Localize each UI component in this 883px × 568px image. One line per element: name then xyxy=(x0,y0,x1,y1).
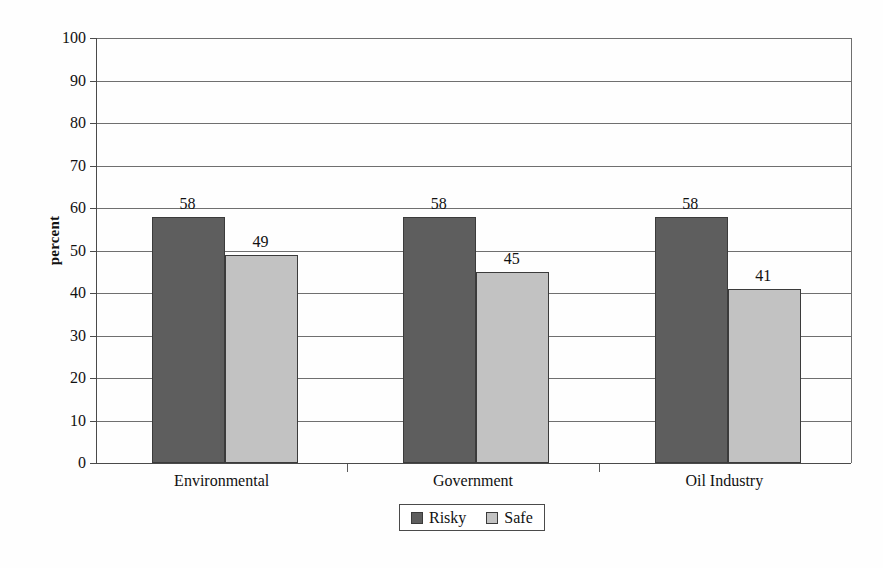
bar-value-label: 41 xyxy=(727,268,800,284)
bar-risky-government xyxy=(403,217,476,464)
bar-value-label: 58 xyxy=(151,196,224,212)
plot-area xyxy=(96,38,851,464)
x-axis-tick-mark xyxy=(599,464,600,472)
x-axis-category-label: Environmental xyxy=(96,472,347,490)
y-axis-tick-label: 20 xyxy=(46,370,86,386)
y-axis-tick-label: 80 xyxy=(46,115,86,131)
y-axis-tick-label: 100 xyxy=(46,30,86,46)
plot-right-border xyxy=(851,38,852,463)
bar-risky-oil-industry xyxy=(655,217,728,464)
gridline xyxy=(97,38,851,39)
legend-item-safe: Safe xyxy=(486,510,532,526)
y-axis-tick-label: 70 xyxy=(46,158,86,174)
bar-value-label: 58 xyxy=(402,196,475,212)
x-axis-tick-mark xyxy=(347,464,348,472)
y-axis-tick-label: 30 xyxy=(46,328,86,344)
legend-label: Safe xyxy=(504,510,532,526)
y-axis-tick-label: 90 xyxy=(46,73,86,89)
bar-value-label: 45 xyxy=(475,251,548,267)
y-axis-tick-label: 10 xyxy=(46,413,86,429)
gridline xyxy=(97,123,851,124)
bar-value-label: 58 xyxy=(654,196,727,212)
bar-safe-environmental xyxy=(225,255,298,463)
bar-risky-environmental xyxy=(152,217,225,464)
y-axis-tick-label: 60 xyxy=(46,200,86,216)
bar-safe-oil-industry xyxy=(728,289,801,463)
y-axis-tick-label: 0 xyxy=(46,455,86,471)
gridline xyxy=(97,166,851,167)
legend-label: Risky xyxy=(429,510,466,526)
x-axis-category-label: Oil Industry xyxy=(599,472,850,490)
chart-legend: RiskySafe xyxy=(399,504,545,531)
legend-swatch-icon xyxy=(411,512,423,524)
y-axis-tick-label: 50 xyxy=(46,243,86,259)
gridline xyxy=(97,81,851,82)
y-axis-tick-labels: 1009080706050403020100 xyxy=(42,0,86,568)
bar-safe-government xyxy=(476,272,549,463)
x-axis-category-label: Government xyxy=(347,472,598,490)
y-axis-tick-label: 40 xyxy=(46,285,86,301)
legend-item-risky: Risky xyxy=(411,510,466,526)
bar-chart-figure: percent 1009080706050403020100 584958455… xyxy=(0,0,883,568)
legend-swatch-icon xyxy=(486,512,498,524)
bar-value-label: 49 xyxy=(224,234,297,250)
